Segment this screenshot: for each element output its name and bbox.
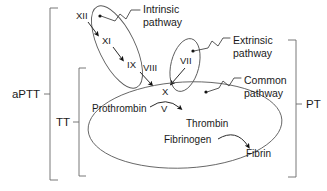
- arrow-vii-to-x: [172, 68, 185, 83]
- prothrombin-label: Prothrombin: [92, 103, 146, 114]
- extrinsic-pathway-group: VII: [165, 35, 205, 94]
- factor-x-label: X: [162, 86, 169, 97]
- cascade-svg: aPTT TT PT XII XI IX VIII: [0, 0, 327, 191]
- factor-viii-label: VIII: [143, 62, 157, 73]
- pt-bracket-group: PT: [288, 40, 321, 177]
- pt-bracket: [288, 40, 296, 177]
- fibrinogen-label: Fibrinogen: [164, 134, 211, 145]
- fibrin-label: Fibrin: [246, 148, 271, 159]
- tt-bracket: [79, 68, 86, 176]
- factor-vii-label: VII: [180, 55, 192, 66]
- extrinsic-pathway-label-line1: Extrinsic: [233, 34, 273, 46]
- coagulation-cascade-diagram: aPTT TT PT XII XI IX VIII: [0, 0, 327, 191]
- factor-xi-label: XI: [102, 35, 111, 46]
- aptt-label: aPTT: [12, 88, 40, 100]
- thrombin-label: Thrombin: [186, 118, 228, 129]
- common-leader-group: Common pathway: [204, 74, 286, 99]
- intrinsic-leader-group: Intrinsic pathway: [98, 3, 182, 28]
- aptt-bracket: [50, 8, 58, 180]
- factor-xii-label: XII: [76, 10, 88, 21]
- intrinsic-pathway-label-line1: Intrinsic: [143, 3, 179, 15]
- intrinsic-pathway-label-line2: pathway: [143, 16, 183, 28]
- tt-bracket-group: TT: [56, 68, 86, 176]
- arrow-fibrinogen-to-fibrin: [218, 135, 248, 146]
- tt-label: TT: [56, 116, 70, 128]
- extrinsic-pathway-label-line2: pathway: [233, 47, 273, 59]
- factor-ix-label: IX: [127, 59, 137, 70]
- extrinsic-leader-group: Extrinsic pathway: [191, 34, 272, 59]
- aptt-bracket-group: aPTT: [12, 8, 58, 180]
- common-leader-line: [207, 78, 241, 92]
- common-pathway-label-line2: pathway: [244, 87, 284, 99]
- pt-label: PT: [306, 98, 321, 110]
- factor-v-label: V: [161, 103, 168, 114]
- arrow-xi-to-ix: [113, 47, 122, 59]
- common-pathway-label-line1: Common: [244, 74, 287, 86]
